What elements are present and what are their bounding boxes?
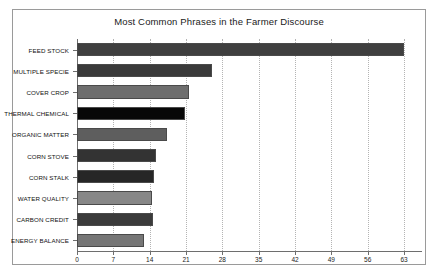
bar	[77, 107, 185, 120]
y-tick-mark	[73, 113, 77, 114]
bar-row	[77, 107, 404, 120]
x-tick-mark	[77, 251, 78, 255]
x-tick-mark	[295, 251, 296, 255]
x-tick-mark	[404, 251, 405, 255]
y-tick-mark	[73, 156, 77, 157]
bar	[77, 43, 404, 56]
y-tick-mark	[73, 240, 77, 241]
y-tick-mark	[73, 50, 77, 51]
y-tick-mark	[73, 219, 77, 220]
category-label: ENERGY BALANCE	[11, 237, 69, 244]
bar-row	[77, 43, 404, 56]
plot-area	[77, 39, 404, 251]
x-tick-label: 49	[328, 256, 335, 263]
chart-frame: Most Common Phrases in the Farmer Discou…	[12, 9, 426, 265]
x-axis-line	[77, 251, 422, 252]
x-tick-label: 14	[146, 256, 153, 263]
y-tick-mark	[73, 198, 77, 199]
bar	[77, 128, 167, 141]
bar	[77, 213, 153, 226]
bar	[77, 85, 189, 98]
bar	[77, 64, 212, 77]
x-tick-label: 28	[219, 256, 226, 263]
category-label: COVER CROP	[26, 89, 69, 96]
x-tick-label: 56	[364, 256, 371, 263]
x-tick-mark	[368, 251, 369, 255]
x-tick-mark	[331, 251, 332, 255]
bar-row	[77, 64, 404, 77]
x-tick-label: 0	[75, 256, 79, 263]
x-tick-label: 35	[255, 256, 262, 263]
bar-row	[77, 213, 404, 226]
y-tick-mark	[73, 177, 77, 178]
category-label: CORN STALK	[29, 173, 69, 180]
x-tick-label: 21	[182, 256, 189, 263]
category-label: CARBON CREDIT	[16, 216, 69, 223]
x-tick-mark	[150, 251, 151, 255]
category-label: ORGANIC MATTER	[12, 131, 69, 138]
category-label: FEED STOCK	[29, 46, 69, 53]
category-label: THERMAL CHEMICAL	[4, 110, 69, 117]
x-tick-mark	[259, 251, 260, 255]
x-tick-label: 7	[112, 256, 116, 263]
bars-group	[77, 39, 404, 251]
bar	[77, 191, 152, 204]
x-tick-mark	[222, 251, 223, 255]
x-tick-mark	[113, 251, 114, 255]
category-label: CORN STOVE	[27, 152, 69, 159]
bar-row	[77, 149, 404, 162]
bar-row	[77, 128, 404, 141]
bar-row	[77, 170, 404, 183]
bar	[77, 149, 156, 162]
y-tick-mark	[73, 134, 77, 135]
x-tick-label: 42	[291, 256, 298, 263]
x-tick-mark	[186, 251, 187, 255]
bar	[77, 234, 144, 247]
category-label: MULTIPLE SPECIE	[13, 67, 69, 74]
bar-row	[77, 85, 404, 98]
bar-row	[77, 234, 404, 247]
chart-title: Most Common Phrases in the Farmer Discou…	[13, 16, 425, 27]
bar	[77, 170, 154, 183]
x-tick-label: 63	[400, 256, 407, 263]
bar-row	[77, 191, 404, 204]
category-label: WATER QUALITY	[18, 195, 69, 202]
y-tick-mark	[73, 92, 77, 93]
y-tick-mark	[73, 71, 77, 72]
gridline	[404, 39, 405, 251]
